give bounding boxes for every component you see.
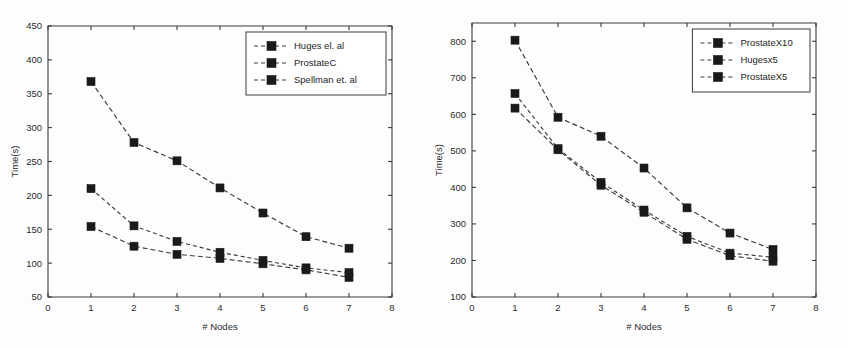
data-point-marker [130,139,138,147]
legend-label-0: Huges el. al [294,40,344,51]
y-tick-label: 100 [450,291,466,302]
x-tick-label: 6 [727,302,732,313]
legend-sample-marker-2 [713,73,722,82]
y-tick-label: 100 [26,258,42,269]
data-point-marker [683,204,691,212]
series-line-2 [515,108,773,261]
x-tick-label: 0 [469,302,474,313]
data-point-marker [302,233,310,241]
series-line-2 [91,82,349,249]
data-point-marker [554,113,562,121]
x-tick-label: 5 [684,302,689,313]
data-point-marker [87,185,95,193]
data-point-marker [173,237,181,245]
x-tick-label: 1 [512,302,517,313]
legend-label-1: ProstateC [294,57,336,68]
data-point-marker [769,246,777,254]
data-point-marker [726,252,734,260]
data-point-marker [640,164,648,172]
y-tick-label: 700 [450,72,466,83]
data-point-marker [87,78,95,86]
y-tick-label: 800 [450,36,466,47]
data-point-marker [130,242,138,250]
data-point-marker [87,223,95,231]
data-point-marker [511,90,519,98]
legend-label-1: Hugesx5 [740,54,778,65]
data-point-marker [597,132,605,140]
data-point-marker [173,157,181,165]
legend-label-0: ProstateX10 [740,37,792,48]
x-tick-label: 0 [45,302,50,313]
x-tick-label: 7 [346,302,351,313]
y-tick-label: 450 [26,20,42,31]
y-tick-label: 600 [450,109,466,120]
data-point-marker [511,36,519,44]
x-tick-label: 8 [813,302,818,313]
data-point-marker [216,184,224,192]
y-tick-label: 200 [450,255,466,266]
y-tick-label: 250 [26,156,42,167]
data-point-marker [173,250,181,258]
chart-panel-left: 01234567850100150200250300350400450# Nod… [0,0,424,348]
data-point-marker [511,104,519,112]
x-tick-label: 8 [389,302,394,313]
legend-sample-marker-2 [267,76,276,85]
legend-label-2: ProstateX5 [740,71,787,82]
x-tick-label: 5 [260,302,265,313]
chart-panel-right: 012345678100200300400500600700800# Nodes… [424,0,848,348]
x-axis-title: # Nodes [626,321,662,332]
y-tick-label: 300 [26,122,42,133]
chart-svg-left: 01234567850100150200250300350400450# Nod… [0,0,424,348]
y-tick-label: 400 [450,182,466,193]
data-point-marker [554,146,562,154]
x-axis-title: # Nodes [202,321,238,332]
data-point-marker [259,256,267,264]
data-point-marker [597,181,605,189]
y-axis-title: Time(s) [9,146,20,178]
y-tick-label: 400 [26,54,42,65]
x-tick-label: 6 [303,302,308,313]
legend-sample-marker-1 [713,56,722,65]
x-tick-label: 3 [174,302,179,313]
data-point-marker [683,235,691,243]
legend-label-2: Spellman et. al [294,74,357,85]
y-tick-label: 300 [450,218,466,229]
y-tick-label: 500 [450,145,466,156]
data-point-marker [302,264,310,272]
x-tick-label: 4 [641,302,646,313]
x-tick-label: 2 [131,302,136,313]
legend-sample-marker-1 [267,59,276,68]
data-point-marker [345,269,353,277]
y-tick-label: 200 [26,190,42,201]
y-axis-title: Time(s) [433,144,444,176]
x-tick-label: 3 [598,302,603,313]
data-point-marker [216,248,224,256]
y-tick-label: 50 [31,291,42,302]
figure-container: 01234567850100150200250300350400450# Nod… [0,0,848,348]
x-tick-label: 4 [217,302,222,313]
data-point-marker [345,244,353,252]
data-point-marker [769,257,777,265]
data-point-marker [640,208,648,216]
x-tick-label: 7 [770,302,775,313]
legend-sample-marker-0 [267,42,276,51]
data-point-marker [259,209,267,217]
legend-sample-marker-0 [713,39,722,48]
y-tick-label: 350 [26,88,42,99]
data-point-marker [726,229,734,237]
chart-svg-right: 012345678100200300400500600700800# Nodes… [424,0,848,348]
x-tick-label: 2 [555,302,560,313]
x-tick-label: 1 [88,302,93,313]
data-point-marker [130,222,138,230]
y-tick-label: 150 [26,224,42,235]
